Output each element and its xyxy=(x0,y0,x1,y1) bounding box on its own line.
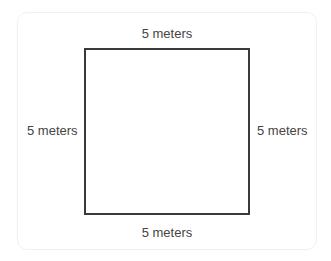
bottom-side-label: 5 meters xyxy=(0,225,331,241)
top-side-label: 5 meters xyxy=(0,26,331,42)
left-side-label: 5 meters xyxy=(27,123,78,139)
square-shape xyxy=(84,48,250,215)
right-side-label: 5 meters xyxy=(257,123,308,139)
